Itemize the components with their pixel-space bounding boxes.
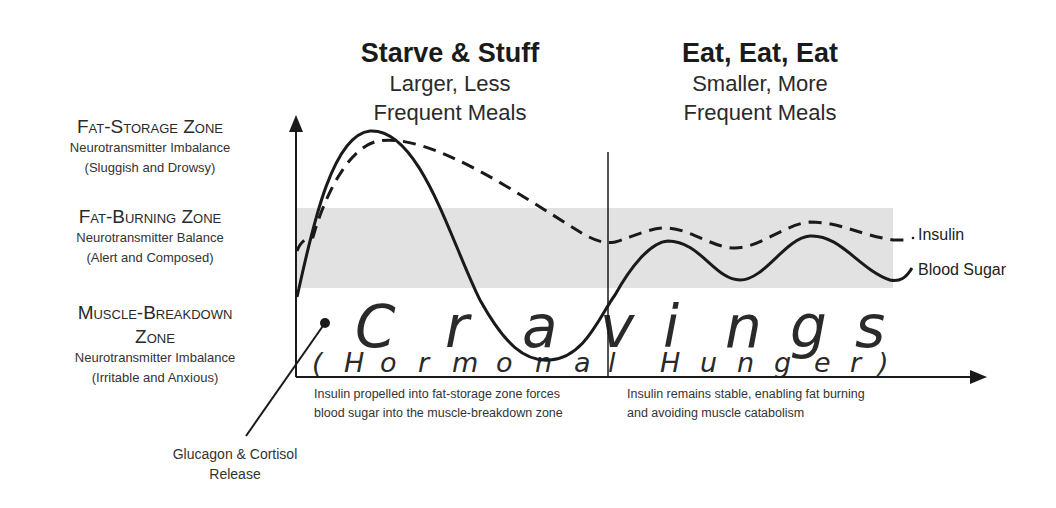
zone-line1: Neurotransmitter Imbalance <box>10 138 290 158</box>
svg-text:n: n <box>535 347 552 378</box>
header-right-title: Eat, Eat, Eat <box>640 38 880 69</box>
header-right-line2: Frequent Meals <box>640 98 880 127</box>
zone-muscle-breakdown: Muscle-Breakdown Zone Neurotransmitter I… <box>10 302 300 388</box>
header-right: Eat, Eat, Eat Smaller, More Frequent Mea… <box>640 38 880 127</box>
svg-text:r: r <box>418 347 431 378</box>
zone-line1: Neurotransmitter Imbalance <box>10 348 300 368</box>
caption-left: Insulin propelled into fat-storage zone … <box>314 385 563 423</box>
zone-line2: (Irritable and Anxious) <box>10 368 300 388</box>
svg-text:o: o <box>496 347 513 378</box>
header-left-title: Starve & Stuff <box>330 38 570 69</box>
caption-left-line2: blood sugar into the muscle-breakdown zo… <box>314 404 563 423</box>
header-left-line2: Frequent Meals <box>330 98 570 127</box>
y-axis-arrow-icon <box>289 115 303 132</box>
svg-text:l: l <box>608 347 616 378</box>
svg-text:u: u <box>700 347 717 378</box>
zone-fat-burning: Fat-Burning Zone Neurotransmitter Balanc… <box>10 206 290 268</box>
caption-right-line2: and avoiding muscle catabolism <box>627 404 865 423</box>
caption-right: Insulin remains stable, enabling fat bur… <box>627 385 865 423</box>
svg-text:r: r <box>850 347 863 378</box>
svg-text:H: H <box>344 347 364 378</box>
callout-line2: Release <box>145 464 325 484</box>
legend-blood-sugar: Blood Sugar <box>918 261 1006 279</box>
svg-text:n: n <box>737 347 754 378</box>
caption-left-line1: Insulin propelled into fat-storage zone … <box>314 385 563 404</box>
callout-dot-icon <box>320 318 330 328</box>
svg-text:o: o <box>380 347 397 378</box>
zone-title-b: Zone <box>10 326 300 348</box>
cravings-text: C r a v i n g s <box>355 293 885 361</box>
legend-insulin: Insulin <box>918 226 964 244</box>
svg-text:(: ( <box>312 347 324 378</box>
svg-text:a: a <box>574 347 591 378</box>
header-right-line1: Smaller, More <box>640 69 880 98</box>
svg-text:e: e <box>814 347 831 378</box>
x-axis-arrow-icon <box>970 370 987 384</box>
svg-text:): ) <box>876 347 889 378</box>
zone-title: Fat-Storage Zone <box>10 116 290 138</box>
zone-title: Fat-Burning Zone <box>10 206 290 228</box>
zone-line2: (Sluggish and Drowsy) <box>10 158 290 178</box>
svg-text:v: v <box>600 293 636 361</box>
zone-fat-storage: Fat-Storage Zone Neurotransmitter Imbala… <box>10 116 290 178</box>
insulin-legend-dot-icon <box>912 237 915 240</box>
header-left: Starve & Stuff Larger, Less Frequent Mea… <box>330 38 570 127</box>
svg-text:H: H <box>660 347 680 378</box>
callout-line1: Glucagon & Cortisol <box>145 444 325 464</box>
callout-glucagon: Glucagon & Cortisol Release <box>145 444 325 484</box>
zone-line2: (Alert and Composed) <box>10 248 290 268</box>
zone-line1: Neurotransmitter Balance <box>10 228 290 248</box>
svg-text:g: g <box>774 347 791 378</box>
fat-burning-band <box>297 208 893 288</box>
svg-text:m: m <box>452 347 478 378</box>
caption-right-line1: Insulin remains stable, enabling fat bur… <box>627 385 865 404</box>
header-left-line1: Larger, Less <box>330 69 570 98</box>
zone-title-a: Muscle-Breakdown <box>10 302 300 324</box>
